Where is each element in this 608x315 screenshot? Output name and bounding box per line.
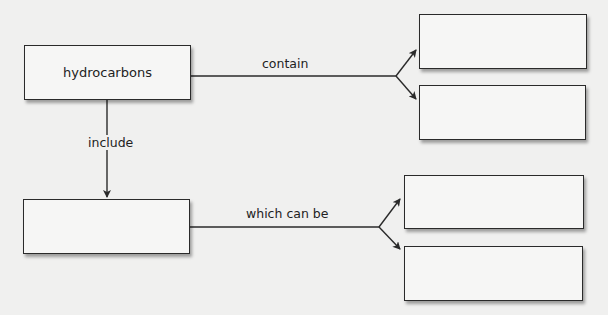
- node-label: hydrocarbons: [63, 65, 152, 80]
- node-included-type-blank[interactable]: [23, 199, 190, 254]
- edge-label-which-can-be: which can be: [246, 206, 328, 221]
- node-contain-2-blank[interactable]: [419, 85, 586, 140]
- edge-label-include: include: [86, 135, 135, 150]
- node-hydrocarbons: hydrocarbons: [24, 45, 191, 100]
- node-which-can-be-1-blank[interactable]: [404, 175, 584, 229]
- node-which-can-be-2-blank[interactable]: [404, 246, 583, 301]
- node-contain-1-blank[interactable]: [419, 14, 587, 69]
- concept-map: include contain which can be hydrocarbon…: [0, 0, 608, 315]
- edge-label-contain: contain: [262, 56, 308, 71]
